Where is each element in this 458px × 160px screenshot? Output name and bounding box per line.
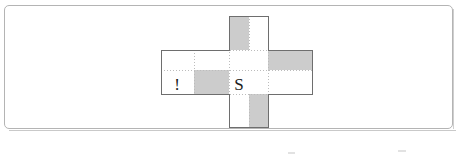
center-cell-label: S	[229, 76, 249, 93]
scan-smudge-left	[288, 152, 295, 154]
outline-right	[312, 50, 313, 95]
grid-line-vertical-mid-left	[194, 50, 195, 94]
top-arm-white-half	[249, 16, 268, 50]
right-arm-lower-white	[268, 70, 313, 94]
grid-line-horizontal-mid	[161, 70, 313, 71]
outline-left	[161, 50, 162, 95]
outline-bottom	[229, 127, 269, 128]
figure-root: S !	[0, 0, 458, 160]
left-arm-upper-white	[161, 50, 229, 70]
outline-bottom-right	[268, 94, 269, 128]
outline-bottom-left	[229, 94, 230, 128]
top-arm-gray-half	[229, 16, 249, 50]
left-arm-lower-right-gray	[194, 70, 229, 94]
outline-top-right	[268, 16, 269, 51]
bottom-arm-gray-half	[249, 94, 268, 128]
grid-line-vertical-top-mid	[249, 16, 250, 50]
right-arm-upper-gray	[268, 50, 313, 70]
outline-bar-bottom-right	[268, 94, 313, 95]
outline-top-left	[229, 16, 230, 51]
frame-shadow-right	[453, 9, 454, 129]
outline-bar-bottom-left	[161, 94, 230, 95]
outline-bar-top-right	[268, 50, 313, 51]
left-arm-label: !	[167, 76, 187, 93]
frame-shadow-bottom	[9, 130, 456, 131]
scan-smudge-right	[398, 150, 406, 152]
outline-bar-top-left	[161, 50, 230, 51]
bottom-arm-white-half	[229, 94, 249, 128]
cross-diagram: S !	[161, 16, 313, 128]
outline-top	[229, 16, 269, 17]
grid-line-vertical-bottom-mid	[249, 94, 250, 128]
